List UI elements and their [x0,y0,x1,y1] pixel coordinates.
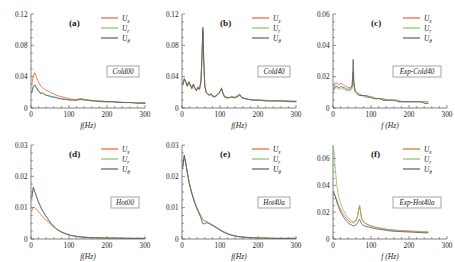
x-tick-label: 200 [404,242,415,250]
case-label-text: Hot40a [262,199,285,207]
x-axis-label: f (Hz) [381,252,399,261]
legend: UxUrUθ [101,14,130,44]
legend-label-Utheta: Uθ [273,165,281,175]
x-tick-label: 0 [331,111,335,119]
legend-label-Ux: Ux [122,14,130,24]
x-tick-label: 200 [102,111,113,119]
y-tick-label: 0.03 [15,142,28,150]
y-tick-label: 0.06 [317,11,330,19]
plot-axes: 00.020.040.060100200300 [317,11,453,119]
y-tick-label: 0 [326,236,330,244]
case-label: Cold40 [258,66,290,77]
case-label-text: Exp-Cold40 [399,68,435,76]
panel-label: (c) [371,18,381,28]
x-tick-label: 0 [29,111,33,119]
x-tick-label: 200 [102,242,113,250]
panel-label: (d) [69,149,80,159]
panel-c: 00.020.040.060100200300(c)UxUrUθExp-Cold… [302,0,453,131]
x-tick-label: 100 [215,242,226,250]
x-tick-label: 200 [404,111,415,119]
y-tick-label: 0.04 [15,73,28,81]
panel-label: (f) [371,149,380,159]
case-label: Exp-Hot40a [393,197,441,208]
legend-label-Ux: Ux [424,14,432,24]
plot-axes: 00.040.080.120100200300 [166,11,302,119]
legend-label-Utheta: Uθ [122,34,130,44]
x-tick-label: 300 [291,242,302,250]
legend: UxUrUθ [252,145,281,175]
y-tick-label: 0.01 [166,204,179,212]
y-tick-label: 0.06 [317,155,330,163]
legend: UxUrUθ [252,14,281,44]
legend: UxUrUθ [403,145,432,175]
case-label-text: Hot00 [115,199,134,207]
y-tick-label: 0.12 [166,11,179,19]
case-label: Hot40a [258,197,290,208]
legend-label-Ur: Ur [273,24,281,34]
y-tick-label: 0.04 [166,73,179,81]
x-tick-label: 200 [253,242,264,250]
legend-label-Utheta: Uθ [424,34,432,44]
series-Utheta [183,155,296,238]
panel-f: 00.020.040.060100200300(f)UxUrUθExp-Hot4… [302,131,453,262]
legend-label-Ux: Ux [273,145,281,155]
legend-label-Ux: Ux [122,145,130,155]
x-axis-label: f(Hz) [231,121,247,130]
x-axis-label: f(Hz) [80,252,96,261]
y-tick-label: 0 [175,236,179,244]
curve-group [333,148,428,233]
y-tick-label: 0.08 [166,42,179,50]
case-label: Cold00 [107,66,139,77]
legend-label-Ur: Ur [122,155,130,165]
x-tick-label: 200 [253,111,264,119]
y-tick-label: 0 [24,105,28,113]
x-tick-label: 300 [442,242,453,250]
x-axis-label: f(Hz) [231,252,247,261]
y-tick-label: 0.08 [15,42,28,50]
panel-e: 00.010.020.030100200300(e)UxUrUθHot40af(… [151,131,302,262]
panel-a: 00.040.080.120100200300(a)UxUrUθCold00f(… [0,0,151,131]
case-label-text: Exp-Hot40a [398,199,435,207]
plot-axes: 00.010.020.030100200300 [15,142,151,250]
legend-label-Utheta: Uθ [273,34,281,44]
x-tick-label: 300 [291,111,302,119]
x-tick-label: 100 [64,111,75,119]
case-label-text: Cold40 [263,68,285,76]
y-tick-label: 0.02 [15,173,28,181]
x-axis-label: f (Hz) [381,121,399,130]
series-Utheta [32,85,145,103]
y-tick-label: 0.04 [317,42,330,50]
legend-label-Ur: Ur [122,24,130,34]
y-tick-label: 0.01 [15,204,28,212]
x-tick-label: 300 [442,111,453,119]
series-Utheta [32,187,145,238]
case-label: Exp-Cold40 [393,66,441,77]
x-tick-label: 0 [180,242,184,250]
x-tick-label: 300 [140,242,151,250]
legend-label-Utheta: Uθ [424,165,432,175]
y-tick-label: 0.04 [317,182,330,190]
legend-label-Ur: Ur [424,155,432,165]
x-tick-label: 300 [140,111,151,119]
panel-label: (b) [220,18,231,28]
panel-b: 00.040.080.120100200300(b)UxUrUθCold40f(… [151,0,302,131]
panel-label: (a) [69,18,80,28]
x-axis-label: f(Hz) [80,121,96,130]
y-tick-label: 0 [326,105,330,113]
y-tick-label: 0 [175,105,179,113]
legend-label-Ur: Ur [424,24,432,34]
curve-group [32,187,145,238]
legend: UxUrUθ [101,145,130,175]
y-tick-label: 0 [24,236,28,244]
y-tick-label: 0.12 [15,11,28,19]
y-tick-label: 0.02 [166,173,179,181]
x-tick-label: 100 [366,242,377,250]
panel-d: 00.010.020.030100200300(d)UxUrUθHot00f(H… [0,131,151,262]
y-tick-label: 0.02 [317,73,330,81]
case-label: Hot00 [111,197,139,208]
figure-panel-grid: 00.040.080.120100200300(a)UxUrUθCold00f(… [0,0,455,262]
x-tick-label: 0 [29,242,33,250]
x-tick-label: 100 [215,111,226,119]
series-Ur [32,188,145,238]
series-Ux [32,207,145,238]
